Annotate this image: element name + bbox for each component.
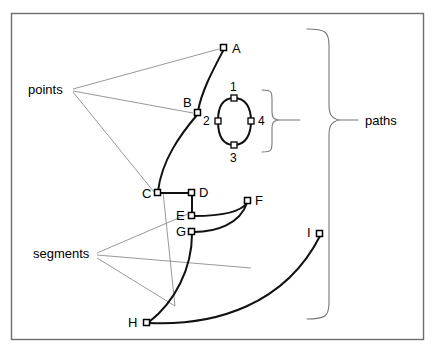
point-label-g: G <box>176 225 186 238</box>
oval-path <box>218 98 251 145</box>
node-3[interactable] <box>231 142 237 148</box>
node-i[interactable] <box>317 231 323 237</box>
oval-label-2: 2 <box>203 115 210 127</box>
point-label-e: E <box>176 209 185 222</box>
node-d[interactable] <box>189 190 195 196</box>
brace-large <box>307 29 358 319</box>
curve-g-f <box>194 203 247 232</box>
curve-b-c <box>158 115 197 191</box>
curve-g-h <box>149 234 192 322</box>
node-g[interactable] <box>189 229 195 235</box>
curve-a-b <box>198 49 224 111</box>
diagram-canvas <box>0 0 435 354</box>
point-label-a: A <box>232 42 241 55</box>
point-label-c: C <box>142 187 151 200</box>
node-c[interactable] <box>155 190 161 196</box>
point-label-i: I <box>307 226 311 239</box>
point-label-f: F <box>255 194 263 207</box>
oval-label-4: 4 <box>258 115 265 127</box>
point-label-b: B <box>183 96 192 109</box>
node-a[interactable] <box>221 45 227 51</box>
node-e[interactable] <box>189 213 195 219</box>
segments-leader-lines <box>97 192 251 306</box>
brace-small <box>262 90 300 152</box>
node-f[interactable] <box>245 198 251 204</box>
oval-label-3: 3 <box>230 152 237 164</box>
points-leader-lines <box>73 49 219 192</box>
oval-label-1: 1 <box>230 81 237 93</box>
node-b[interactable] <box>195 110 201 116</box>
node-1[interactable] <box>231 95 237 101</box>
curve-h-i <box>149 236 320 323</box>
node-h[interactable] <box>144 320 150 326</box>
node-4[interactable] <box>248 118 254 124</box>
curve-e-f <box>194 203 247 216</box>
node-2[interactable] <box>215 118 221 124</box>
group-label-segments: segments <box>33 247 89 260</box>
point-label-d: D <box>199 186 208 199</box>
group-label-paths: paths <box>365 114 397 127</box>
diagram-figure: points segments paths A B C D E F G H I … <box>0 0 435 354</box>
group-label-points: points <box>28 83 63 96</box>
point-label-h: H <box>128 316 137 329</box>
